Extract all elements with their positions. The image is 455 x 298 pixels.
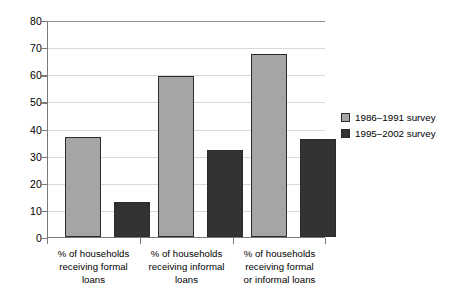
y-axis-tick-label: 0 <box>8 233 42 243</box>
gridline-70 <box>48 48 325 49</box>
category-label-3-line-2: receiving formal <box>226 260 333 273</box>
bar-group-3-series-2 <box>300 139 336 237</box>
category-label-2-line-2: receiving informal <box>134 260 239 273</box>
y-axis-tick-label: 10 <box>8 206 42 216</box>
bar-chart: 80 70 60 50 40 30 20 10 0 % of <box>0 0 455 298</box>
legend-label-series-1: 1986–1991 survey <box>355 112 436 123</box>
category-separator <box>47 238 48 244</box>
category-label-2-line-1: % of households <box>134 247 239 260</box>
category-separator <box>233 238 234 244</box>
category-label-2: % of households receiving informal loans <box>134 247 239 286</box>
category-label-1-line-1: % of households <box>41 247 146 260</box>
category-label-2-line-3: loans <box>134 273 239 286</box>
legend-item-series-1: 1986–1991 survey <box>341 110 453 124</box>
y-axis-tick-label: 80 <box>8 16 42 26</box>
y-axis-tick-label: 60 <box>8 70 42 80</box>
chart-legend: 1986–1991 survey 1995–2002 survey <box>341 110 453 142</box>
category-label-3: % of households receiving formal or info… <box>226 247 333 286</box>
bar-group-2-series-2 <box>207 150 243 237</box>
legend-label-series-2: 1995–2002 survey <box>355 128 436 139</box>
y-axis-tick-label: 70 <box>8 43 42 53</box>
bar-group-2-series-1 <box>158 76 194 237</box>
bar-group-3-series-1 <box>251 54 287 237</box>
category-label-1: % of households receiving formal loans <box>41 247 146 286</box>
y-axis-tick-label: 50 <box>8 97 42 107</box>
y-axis-tick-label: 20 <box>8 179 42 189</box>
bar-group-1-series-2 <box>114 202 150 237</box>
category-label-1-line-3: loans <box>41 273 146 286</box>
gridline-80 <box>48 21 325 22</box>
category-separator <box>325 238 326 244</box>
y-axis-tick-label: 40 <box>8 125 42 135</box>
legend-swatch-series-2-icon <box>341 129 350 138</box>
category-label-3-line-1: % of households <box>226 247 333 260</box>
y-axis-tick-label: 30 <box>8 152 42 162</box>
category-separator <box>140 238 141 244</box>
category-label-1-line-2: receiving formal <box>41 260 146 273</box>
legend-swatch-series-1-icon <box>341 113 350 122</box>
category-label-3-line-3: or informal loans <box>226 273 333 286</box>
bar-group-1-series-1 <box>65 137 101 237</box>
legend-item-series-2: 1995–2002 survey <box>341 126 453 140</box>
plot-area <box>47 21 325 238</box>
